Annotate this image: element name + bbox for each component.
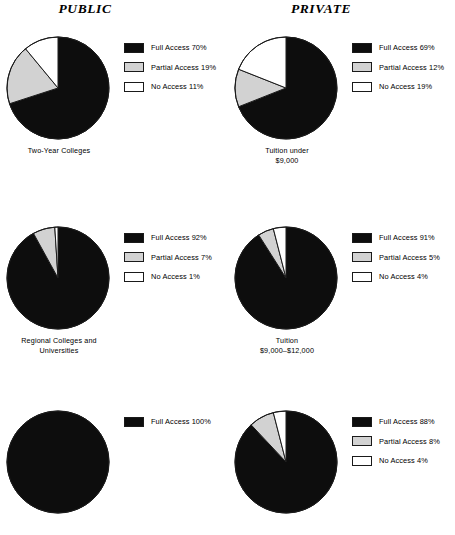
legend-label: No Access 4%	[379, 272, 428, 281]
legend-label: Partial Access 8%	[379, 437, 440, 446]
legend-swatch-full-access	[352, 233, 372, 243]
legend-label: Full Access 100%	[151, 417, 211, 426]
pie-svg	[6, 36, 110, 140]
legend-label: No Access 4%	[379, 456, 428, 465]
chart-legend: Full Access 69%Partial Access 12%No Acce…	[352, 38, 444, 97]
legend-row: Full Access 92%	[124, 228, 212, 248]
legend-row: Partial Access 12%	[352, 58, 444, 78]
legend-label: Full Access 88%	[379, 417, 435, 426]
legend-swatch-full-access	[352, 43, 372, 53]
legend-row: Full Access 88%	[352, 412, 440, 432]
legend-label: Full Access 69%	[379, 43, 435, 52]
legend-swatch-no-access	[352, 456, 372, 466]
legend-row: No Access 19%	[352, 77, 444, 97]
legend-label: Partial Access 7%	[151, 253, 212, 262]
pie-chart	[6, 36, 110, 140]
legend-label: No Access 19%	[379, 82, 432, 91]
legend-row: Full Access 70%	[124, 38, 216, 58]
legend-row: No Access 11%	[124, 77, 216, 97]
legend-row: Full Access 69%	[352, 38, 444, 58]
legend-label: Full Access 70%	[151, 43, 207, 52]
column-header-public: PUBLIC	[0, 1, 170, 17]
legend-row: Partial Access 19%	[124, 58, 216, 78]
legend-label: No Access 11%	[151, 82, 204, 91]
legend-swatch-no-access	[352, 272, 372, 282]
legend-label: Partial Access 19%	[151, 63, 216, 72]
chart-legend: Full Access 100%	[124, 412, 211, 432]
pie-slice-full-access	[7, 411, 109, 513]
legend-row: No Access 4%	[352, 267, 440, 287]
legend-swatch-full-access	[124, 43, 144, 53]
legend-label: Full Access 91%	[379, 233, 435, 242]
chart-legend: Full Access 91%Partial Access 5%No Acces…	[352, 228, 440, 287]
legend-swatch-partial-access	[124, 252, 144, 262]
column-header-private: PRIVATE	[255, 1, 387, 17]
chart-legend: Full Access 70%Partial Access 19%No Acce…	[124, 38, 216, 97]
chart-legend: Full Access 92%Partial Access 7%No Acces…	[124, 228, 212, 287]
legend-swatch-full-access	[124, 417, 144, 427]
pie-chart	[234, 226, 338, 330]
pie-svg	[6, 226, 110, 330]
pie-chart	[234, 36, 338, 140]
chart-caption: Tuition under $9,000	[228, 146, 346, 165]
legend-swatch-partial-access	[124, 62, 144, 72]
chart-cell-public-row3: Full Access 100%	[0, 392, 227, 535]
legend-swatch-no-access	[124, 82, 144, 92]
chart-cell-private-row1: Tuition under $9,000 Full Access 69%Part…	[228, 18, 455, 208]
legend-label: Partial Access 5%	[379, 253, 440, 262]
legend-swatch-full-access	[124, 233, 144, 243]
legend-label: No Access 1%	[151, 272, 200, 281]
legend-swatch-partial-access	[352, 62, 372, 72]
pie-svg	[234, 226, 338, 330]
pie-chart	[234, 410, 338, 514]
legend-row: Partial Access 7%	[124, 248, 212, 268]
pie-svg	[234, 410, 338, 514]
legend-row: Partial Access 5%	[352, 248, 440, 268]
legend-label: Full Access 92%	[151, 233, 207, 242]
chart-caption: Tuition $9,000–$12,000	[228, 336, 346, 355]
legend-swatch-partial-access	[352, 252, 372, 262]
chart-legend: Full Access 88%Partial Access 8%No Acces…	[352, 412, 440, 471]
pie-chart	[6, 226, 110, 330]
legend-swatch-full-access	[352, 417, 372, 427]
legend-swatch-no-access	[352, 82, 372, 92]
pie-svg	[6, 410, 110, 514]
legend-row: Full Access 100%	[124, 412, 211, 432]
chart-caption: Regional Colleges and Universities	[0, 336, 118, 355]
pie-svg	[234, 36, 338, 140]
legend-row: Partial Access 8%	[352, 432, 440, 452]
legend-row: No Access 4%	[352, 451, 440, 471]
legend-row: No Access 1%	[124, 267, 212, 287]
chart-cell-public-row1: Two-Year Colleges Full Access 70%Partial…	[0, 18, 227, 208]
chart-caption: Two-Year Colleges	[0, 146, 118, 156]
chart-cell-private-row3: Full Access 88%Partial Access 8%No Acces…	[228, 392, 455, 535]
chart-cell-public-row2: Regional Colleges and Universities Full …	[0, 208, 227, 398]
legend-swatch-partial-access	[352, 436, 372, 446]
legend-row: Full Access 91%	[352, 228, 440, 248]
pie-chart	[6, 410, 110, 514]
legend-label: Partial Access 12%	[379, 63, 444, 72]
chart-cell-private-row2: Tuition $9,000–$12,000 Full Access 91%Pa…	[228, 208, 455, 398]
legend-swatch-no-access	[124, 272, 144, 282]
